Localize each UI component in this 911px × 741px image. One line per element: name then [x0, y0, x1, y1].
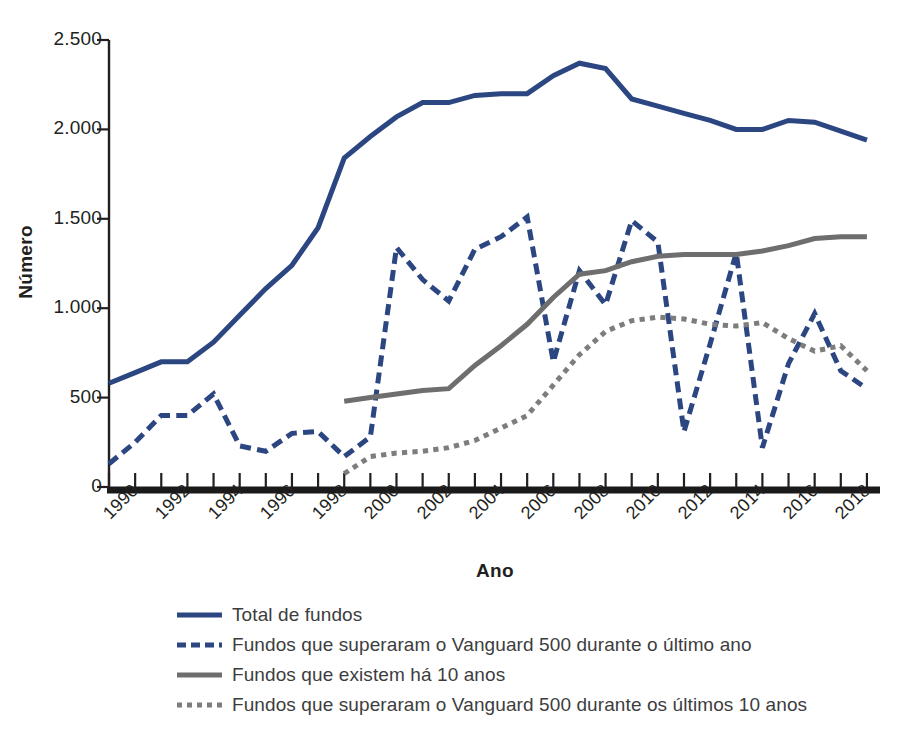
- ytick-label-0: 0: [26, 475, 102, 497]
- legend-item-superaram-ultimos-10-anos[interactable]: Fundos que superaram o Vanguard 500 dura…: [176, 690, 896, 720]
- ytick-label-1000: 1.000: [26, 296, 102, 318]
- chart-figure: 2.500 2.000 1.500 1.000 500 0 Número 199…: [0, 0, 911, 741]
- ytick-label-1500: 1.500: [26, 207, 102, 229]
- legend-item-existem-ha-10-anos[interactable]: Fundos que existem há 10 anos: [176, 660, 896, 690]
- series-line-4: [344, 317, 867, 473]
- chart-legend: Total de fundos Fundos que superaram o V…: [176, 600, 896, 720]
- axis-layer: [97, 40, 880, 490]
- x-axis-title: Ano: [455, 560, 535, 582]
- y-axis-title: Número: [15, 217, 37, 307]
- legend-swatch-dotted-gray-icon: [176, 698, 223, 712]
- legend-label-superaram-ultimo-ano: Fundos que superaram o Vanguard 500 dura…: [232, 634, 752, 656]
- legend-swatch-dashed-blue-icon: [176, 638, 223, 652]
- ytick-label-2000: 2.000: [26, 117, 102, 139]
- series-layer: [109, 63, 867, 473]
- ytick-label-2500: 2.500: [26, 28, 102, 50]
- legend-swatch-solid-blue-icon: [176, 608, 223, 622]
- legend-label-superaram-ultimos-10-anos: Fundos que superaram o Vanguard 500 dura…: [232, 694, 807, 716]
- legend-item-total-de-fundos[interactable]: Total de fundos: [176, 600, 896, 630]
- legend-label-total-de-fundos: Total de fundos: [232, 604, 362, 626]
- series-line-3: [344, 237, 867, 402]
- series-line-1: [109, 63, 867, 383]
- legend-item-superaram-ultimo-ano[interactable]: Fundos que superaram o Vanguard 500 dura…: [176, 630, 896, 660]
- legend-label-existem-ha-10-anos: Fundos que existem há 10 anos: [232, 664, 505, 686]
- ytick-label-500: 500: [26, 386, 102, 408]
- legend-swatch-solid-gray-icon: [176, 668, 223, 682]
